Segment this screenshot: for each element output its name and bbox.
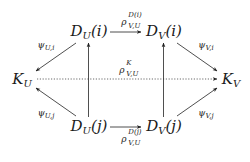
node-sub: U (23, 78, 31, 89)
label-sub: U,j (45, 112, 55, 120)
node-DVi: DV(i) (146, 24, 182, 41)
node-DVj: DV(j) (146, 119, 182, 136)
node-base: K (222, 70, 233, 88)
node-KV: KV (222, 72, 240, 89)
label-sup: D(j) (128, 129, 141, 136)
label-psi-Uj: ψU,j (38, 109, 55, 120)
label-sub: V,i (205, 44, 213, 52)
label-sub: V,U (128, 23, 140, 30)
node-base: K (12, 70, 23, 88)
label-sub: V,U (128, 140, 140, 147)
label-rho-Dj: ρD(j)V,U (121, 135, 126, 144)
label-psi-Vj: ψV,j (198, 109, 213, 120)
node-arg: (j) (91, 117, 107, 135)
node-DUi: DU(i) (71, 24, 108, 41)
node-base: D (71, 22, 83, 40)
node-arg: (j) (165, 117, 181, 135)
label-symbol: ψ (38, 40, 45, 50)
node-KU: KU (12, 72, 32, 89)
label-psi-Vi: ψV,i (198, 41, 213, 52)
node-base: D (71, 117, 83, 135)
node-arg: (i) (165, 22, 182, 40)
label-symbol: ρ (121, 17, 126, 27)
label-rho-Di: ρD(i)V,U (121, 18, 126, 27)
label-sup: K (126, 60, 131, 67)
label-sub: V,U (126, 71, 138, 78)
label-symbol: ψ (198, 40, 205, 50)
label-psi-Ui: ψU,i (38, 41, 55, 52)
label-sup: D(i) (128, 12, 141, 19)
label-sub: V,j (205, 112, 213, 120)
node-base: D (146, 22, 158, 40)
label-symbol: ρ (119, 65, 124, 75)
label-sub: U,i (45, 44, 55, 52)
node-sub: V (233, 78, 240, 89)
label-symbol: ψ (38, 108, 45, 118)
label-symbol: ρ (121, 134, 126, 144)
node-arg: (i) (91, 22, 108, 40)
label-symbol: ψ (198, 108, 205, 118)
node-DUj: DU(j) (71, 119, 108, 136)
node-base: D (146, 117, 158, 135)
label-rho-K: ρKV,U (119, 66, 124, 75)
